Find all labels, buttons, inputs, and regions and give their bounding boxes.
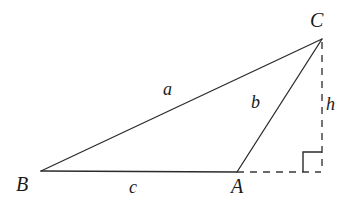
triangle-altitude-diagram: B A C a b c h [0,0,353,204]
side-label-c: c [129,178,137,196]
side-label-b: b [251,93,260,111]
side-c-line [41,171,237,172]
vertex-label-B: B [16,174,28,194]
side-label-a: a [163,80,172,98]
geometry-canvas [0,0,353,204]
right-angle-marker-icon [303,152,322,172]
side-label-h: h [326,95,335,113]
vertex-label-A: A [231,176,243,196]
vertex-label-C: C [310,10,323,30]
